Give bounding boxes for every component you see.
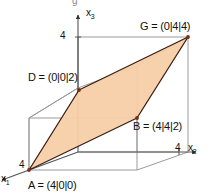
- diagram-canvas: g G = (0|4|4) D = (0|0|2) B = (4|4|2) A …: [0, 0, 211, 196]
- vertex-dot-A: [27, 168, 31, 172]
- axis-label-x3-subscript: 3: [91, 13, 95, 20]
- tick-label-x1: 4: [19, 160, 24, 170]
- tick-label-x2: 4: [175, 143, 180, 153]
- point-label-B: B = (4|4|2): [133, 121, 182, 132]
- top-crop-artifact: g: [72, 0, 77, 6]
- axis-label-x1: x1: [1, 174, 10, 186]
- tick-label-x3: 4: [60, 31, 65, 41]
- axis-label-x2-subscript: 2: [193, 148, 197, 155]
- axis-label-x2: x2: [188, 143, 197, 155]
- vertex-dot-D: [77, 88, 81, 92]
- point-label-G: G = (0|4|4): [140, 21, 190, 32]
- point-label-D: D = (0|0|2): [28, 72, 78, 83]
- point-label-A: A = (4|0|0): [28, 180, 76, 191]
- vertex-dot-G: [186, 35, 190, 39]
- axis-label-x3: x3: [86, 8, 95, 20]
- cube-edge: [137, 152, 188, 170]
- axis-label-x1-subscript: 1: [6, 179, 10, 186]
